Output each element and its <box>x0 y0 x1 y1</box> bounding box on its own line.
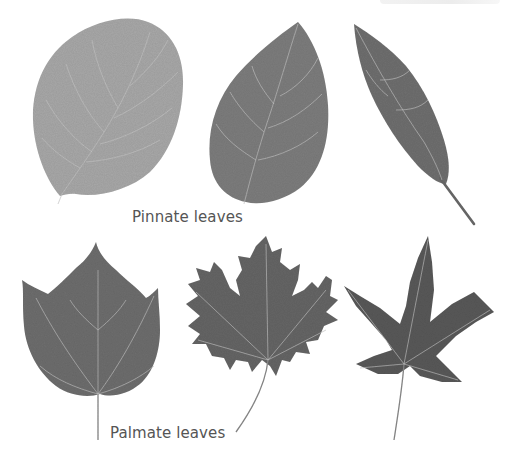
leaf-figure <box>0 0 512 460</box>
leaf-blade <box>344 236 494 382</box>
three-lobed-leaf <box>22 242 160 440</box>
maple-leaf <box>186 236 338 432</box>
leaf-blade <box>209 22 328 203</box>
leaf-blade <box>22 242 160 396</box>
leaf-blade <box>33 18 183 196</box>
rounded-serrate-leaf <box>33 18 183 204</box>
palmate-leaves-label: Palmate leaves <box>110 424 225 442</box>
leaf-stem <box>394 364 404 440</box>
leaf-blade <box>186 236 338 376</box>
leaf-stem <box>440 178 474 224</box>
pinnate-leaves-label: Pinnate leaves <box>132 208 243 226</box>
lanceolate-leaf <box>354 24 474 224</box>
leaf-blade <box>354 24 449 184</box>
ovate-leaf <box>209 22 328 204</box>
japanese-maple-leaf <box>344 236 494 440</box>
